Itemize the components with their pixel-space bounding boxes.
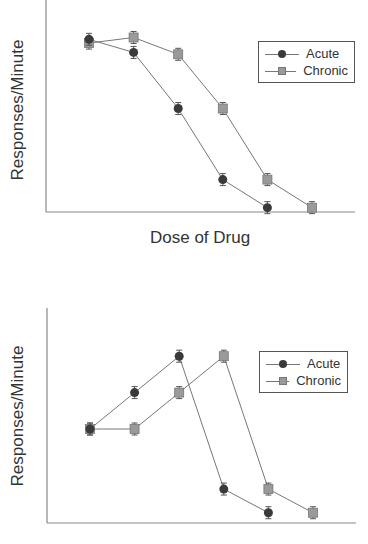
bottom-chart: Responses/Minute Acute Chronic — [0, 280, 368, 544]
data-point-chronic — [219, 350, 228, 362]
data-point-chronic — [308, 202, 317, 214]
square-marker-icon — [265, 65, 296, 77]
data-point-chronic — [129, 31, 138, 43]
top-x-axis-label: Dose of Drug — [150, 228, 250, 248]
circle-marker-icon — [266, 358, 300, 370]
top-y-axis-label: Responses/Minute — [8, 40, 28, 181]
series-line-acute — [89, 39, 267, 207]
legend-label: Acute — [306, 46, 339, 61]
bottom-chart-plot-area — [0, 280, 368, 544]
bottom-y-axis-label: Responses/Minute — [8, 346, 28, 487]
bottom-legend: Acute Chronic — [259, 351, 348, 393]
series-line-acute — [90, 356, 268, 513]
top-chart: Responses/Minute Dose of Drug Acute Chro… — [0, 0, 368, 270]
legend-item-acute: Acute — [265, 45, 348, 62]
data-point-chronic — [218, 103, 227, 115]
data-point-chronic — [264, 483, 273, 495]
legend-label: Acute — [307, 356, 340, 371]
legend-item-chronic: Chronic — [265, 62, 348, 79]
legend-label: Chronic — [296, 373, 341, 388]
data-point-acute — [264, 507, 273, 519]
legend-item-chronic: Chronic — [266, 372, 341, 389]
data-point-chronic — [174, 48, 183, 60]
square-marker-icon — [266, 375, 289, 387]
circle-marker-icon — [265, 48, 299, 60]
data-point-chronic — [130, 423, 139, 435]
top-legend: Acute Chronic — [258, 41, 355, 83]
data-point-chronic — [263, 174, 272, 186]
data-point-acute — [219, 483, 228, 495]
legend-label: Chronic — [303, 63, 348, 78]
data-point-chronic — [309, 507, 318, 519]
legend-item-acute: Acute — [266, 355, 341, 372]
data-point-chronic — [175, 387, 184, 399]
data-point-acute — [175, 350, 184, 362]
data-point-acute — [130, 387, 139, 399]
